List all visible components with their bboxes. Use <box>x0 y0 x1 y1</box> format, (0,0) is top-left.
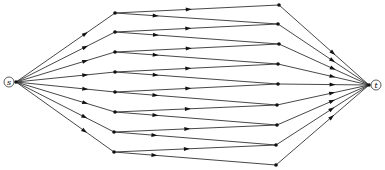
arrowhead-icon <box>184 147 190 151</box>
arrowhead-icon <box>328 106 335 113</box>
graph-node <box>367 83 371 87</box>
graph-node <box>113 30 117 34</box>
arrowhead-icon <box>329 57 336 64</box>
graph-node <box>277 3 281 7</box>
arrowhead-icon <box>329 66 336 72</box>
arrowhead-icon <box>329 98 336 104</box>
graph-node <box>276 62 280 66</box>
arrowhead-icon <box>153 14 159 18</box>
edge <box>16 32 115 82</box>
edge <box>114 152 276 165</box>
arrowhead-icon <box>330 83 336 87</box>
edge <box>16 13 115 82</box>
edge <box>114 125 277 132</box>
edge <box>115 84 278 92</box>
source-node: s <box>4 77 14 87</box>
source-label: s <box>7 78 11 87</box>
graph-node <box>113 11 117 15</box>
edge <box>115 5 279 13</box>
edge <box>278 64 369 85</box>
arrowhead-icon <box>185 26 191 30</box>
arrowhead-icon <box>185 66 191 70</box>
graph-node <box>14 80 18 84</box>
edge <box>279 44 369 85</box>
arrowhead-icon <box>81 128 88 135</box>
edge <box>115 92 277 105</box>
edge <box>114 145 276 152</box>
arrowhead-icon <box>82 44 89 50</box>
arrowhead-icon <box>151 133 157 137</box>
arrowhead-icon <box>184 127 190 131</box>
graph-node <box>112 150 116 154</box>
arrowhead-icon <box>329 74 336 79</box>
graph-node <box>113 50 117 54</box>
edge <box>115 24 278 32</box>
arrowhead-icon <box>185 86 191 90</box>
graph-node <box>113 70 117 74</box>
edge <box>278 24 369 85</box>
graph-node <box>277 42 281 46</box>
edge <box>115 13 278 24</box>
edge <box>278 84 369 85</box>
arrowhead-icon <box>186 46 192 50</box>
edge <box>115 105 277 112</box>
edge <box>16 82 114 152</box>
edge <box>115 112 277 125</box>
arrowhead-icon <box>151 153 157 157</box>
edge <box>276 85 369 145</box>
arrowhead-icon <box>153 73 159 77</box>
edge <box>115 32 279 44</box>
arrowhead-icon <box>152 113 158 117</box>
nodes <box>14 3 371 167</box>
arrowhead-icon <box>329 90 336 95</box>
arrowhead-icon <box>82 30 89 37</box>
arrowhead-icon <box>153 53 159 57</box>
edge <box>114 132 276 145</box>
edge <box>276 85 369 165</box>
graph-node <box>276 22 280 26</box>
graph-node <box>275 103 279 107</box>
edges <box>16 5 369 165</box>
edge <box>115 44 279 52</box>
edge <box>16 82 115 92</box>
edge <box>277 85 369 125</box>
graph-node <box>113 90 117 94</box>
edge <box>277 85 369 105</box>
flow-network-diagram: s t <box>0 0 385 170</box>
edge <box>16 72 115 82</box>
arrowhead-icon <box>153 33 159 37</box>
edge <box>115 72 278 84</box>
graph-node <box>113 110 117 114</box>
graph-node <box>274 143 278 147</box>
arrowhead-icon <box>82 58 89 64</box>
arrowhead-icon <box>81 114 88 120</box>
arrowhead-icon <box>152 93 158 97</box>
edge <box>115 64 278 72</box>
graph-node <box>275 123 279 127</box>
edge <box>115 52 278 64</box>
graph-node <box>274 163 278 167</box>
graph-node <box>276 82 280 86</box>
arrowhead-icon <box>82 73 88 78</box>
edge <box>279 5 369 85</box>
arrowhead-icon <box>82 100 89 106</box>
arrowhead-icon <box>186 7 192 11</box>
graph-node <box>112 130 116 134</box>
sink-node: t <box>371 80 381 90</box>
arrowhead-icon <box>82 87 88 92</box>
arrowhead-icon <box>185 107 191 111</box>
